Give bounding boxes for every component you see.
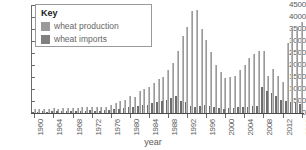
bar-imports (237, 107, 239, 113)
legend-swatch-production-icon (41, 22, 50, 31)
bar-production (282, 82, 284, 113)
bar-imports (194, 107, 196, 113)
bar-production (134, 97, 136, 113)
bar-imports (180, 101, 182, 113)
bar-imports (151, 103, 153, 113)
x-tick-label: 1996 (209, 119, 217, 136)
x-tick-label: 2004 (247, 119, 255, 136)
bar-production (153, 83, 155, 113)
bar-imports (104, 110, 106, 113)
x-tick-label: 2000 (228, 119, 236, 136)
bar-imports (199, 106, 201, 113)
bar-production (67, 108, 69, 113)
bar-imports (108, 110, 110, 113)
legend-title: Key (41, 8, 147, 18)
x-tick (302, 114, 303, 118)
x-tick-label: 1964 (56, 119, 64, 136)
bar-production (139, 91, 141, 113)
bar-imports (123, 108, 125, 113)
bar-production (215, 65, 217, 113)
legend-item-production: wheat production (41, 20, 147, 32)
bar-imports (275, 96, 277, 113)
bar-production (220, 72, 222, 113)
bar-imports (280, 100, 282, 113)
bar-imports (242, 107, 244, 113)
bar-production (110, 105, 112, 113)
bar-production (205, 40, 207, 113)
bar-production (53, 108, 55, 113)
bar-production (115, 103, 117, 113)
bar-imports (223, 109, 225, 113)
bar-imports (132, 107, 134, 113)
bar-imports (190, 106, 192, 113)
bar-imports (70, 111, 72, 113)
bar-production (124, 100, 126, 113)
bar-imports (99, 111, 101, 113)
bar-production (77, 108, 79, 113)
bar-production (57, 109, 59, 113)
bar-imports (37, 112, 39, 113)
legend: Key wheat production wheat imports (35, 4, 152, 47)
bar-production (129, 96, 131, 113)
bar-imports (75, 111, 77, 113)
bar-production (143, 89, 145, 113)
bar-imports (80, 111, 82, 113)
bar-production (100, 107, 102, 113)
x-tick (53, 114, 54, 118)
bar-production (234, 76, 236, 113)
bar-imports (46, 112, 48, 113)
bar-production (148, 87, 150, 113)
bar-imports (261, 87, 263, 113)
x-tick (263, 114, 264, 118)
x-tick (73, 114, 74, 118)
bar-production (239, 70, 241, 113)
bar-production (263, 51, 265, 113)
bar-imports (233, 108, 235, 113)
bar-production (301, 22, 303, 113)
bar-imports (94, 111, 96, 113)
bar-production (177, 51, 179, 113)
bar-imports (170, 98, 172, 113)
bar-production (248, 58, 250, 113)
bar-imports (42, 111, 44, 113)
bar-production (72, 108, 74, 113)
bar-imports (166, 100, 168, 113)
bar-production (182, 36, 184, 113)
bar-imports (85, 111, 87, 113)
x-tick-label: 2016 (305, 119, 306, 136)
bar-production (172, 63, 174, 113)
bar-imports (113, 109, 115, 113)
bar-production (244, 65, 246, 113)
x-tick (111, 114, 112, 118)
bar-imports (299, 104, 301, 113)
bar-imports (213, 107, 215, 113)
bar-production (191, 11, 193, 113)
bar-production (167, 70, 169, 113)
bar-production (287, 43, 289, 113)
x-tick-label: 2008 (266, 119, 274, 136)
x-tick-label: 1980 (133, 119, 141, 136)
bar-imports (161, 101, 163, 113)
bar-production (224, 78, 226, 113)
legend-label-imports: wheat imports (54, 35, 107, 44)
x-tick (130, 114, 131, 118)
bar-imports (256, 106, 258, 113)
bar-imports (295, 103, 297, 113)
bar-production (158, 79, 160, 113)
bar-imports (147, 105, 149, 113)
bar-production (34, 109, 36, 113)
x-tick-label: 1960 (37, 119, 45, 136)
bar-production (119, 101, 121, 113)
bar-production (105, 107, 107, 113)
x-tick-label: 1984 (152, 119, 160, 136)
x-tick (34, 114, 35, 118)
bar-production (272, 69, 274, 113)
bar-imports (285, 101, 287, 113)
bar-production (186, 27, 188, 113)
x-tick-label: 1976 (114, 119, 122, 136)
bar-production (253, 54, 255, 113)
bar-imports (128, 107, 130, 113)
bar-imports (175, 96, 177, 113)
legend-label-production: wheat production (54, 22, 119, 31)
x-tick (206, 114, 207, 118)
